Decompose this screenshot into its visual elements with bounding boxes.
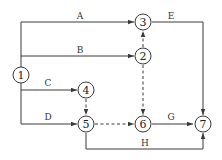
edge-label-h: H [141, 138, 149, 148]
svg-text:3: 3 [140, 16, 147, 29]
svg-text:2: 2 [140, 50, 147, 63]
edge-label-b: B [77, 45, 84, 55]
activity-c: C [21, 78, 77, 90]
activity-e: E [152, 11, 203, 115]
svg-text:6: 6 [140, 118, 147, 131]
svg-text:5: 5 [83, 118, 90, 131]
node-2: 2 [135, 48, 151, 64]
node-7: 7 [195, 116, 211, 132]
svg-text:4: 4 [83, 84, 90, 97]
node-5: 5 [78, 116, 94, 132]
activity-d: D [21, 90, 77, 124]
activity-b: B [21, 45, 134, 56]
svg-text:7: 7 [200, 118, 207, 131]
node-6: 6 [135, 116, 151, 132]
edge-label-g: G [167, 112, 174, 122]
activity-a: A [21, 11, 134, 67]
svg-text:1: 1 [18, 69, 25, 82]
edge-label-d: D [44, 112, 51, 122]
node-4: 4 [78, 82, 94, 98]
node-1: 1 [13, 67, 29, 83]
activity-g: G [152, 112, 193, 124]
edge-label-c: C [45, 78, 52, 88]
network-diagram: A B C D E G H 1 2 [0, 0, 222, 160]
node-3: 3 [135, 14, 151, 30]
activity-h: H [86, 133, 203, 149]
edge-label-a: A [76, 11, 84, 21]
edge-label-e: E [168, 11, 175, 21]
